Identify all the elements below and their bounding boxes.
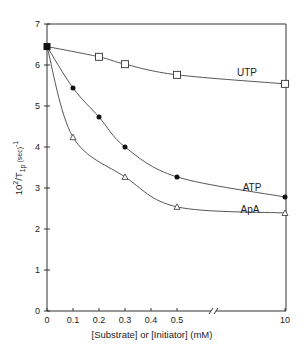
triangle-marker xyxy=(122,174,128,180)
y-tick-label: 4 xyxy=(35,142,40,152)
dot-marker xyxy=(283,195,288,200)
y-tick-label: 0 xyxy=(35,306,40,316)
series-labels: UTPATPApA xyxy=(237,67,262,215)
y-axis-title: 102/T1p (sec)-1 xyxy=(12,141,27,196)
x-tick-label: 0 xyxy=(44,315,49,325)
x-tick-label: 0.2 xyxy=(93,315,106,325)
dot-marker xyxy=(97,115,102,120)
series-label-utp: UTP xyxy=(237,67,257,78)
dot-marker xyxy=(123,145,128,150)
x-tick-label: 0.5 xyxy=(171,315,184,325)
y-tick-label: 5 xyxy=(35,101,40,111)
square-marker xyxy=(282,80,289,87)
dot-marker xyxy=(71,85,76,90)
x-tick-label: 0.1 xyxy=(67,315,80,325)
chart: 01234567 00.10.20.30.40.510 UTPATPApA [S… xyxy=(0,0,307,349)
y-axis-ticks: 01234567 xyxy=(35,19,50,316)
series-label-atp: ATP xyxy=(243,182,262,193)
x-tick-label: 0.3 xyxy=(119,315,132,325)
x-tick-label: 0.4 xyxy=(145,315,158,325)
series-label-apa: ApA xyxy=(241,204,260,215)
y-tick-label: 1 xyxy=(35,265,40,275)
dot-marker xyxy=(175,174,180,179)
square-marker xyxy=(174,71,181,78)
x-axis-title: [Substrate] or [Initiator] (mM) xyxy=(92,329,213,340)
triangle-marker xyxy=(70,134,76,140)
square-marker xyxy=(96,53,103,60)
y-tick-label: 7 xyxy=(35,19,40,29)
curve-utp xyxy=(47,47,285,84)
y-tick-label: 2 xyxy=(35,224,40,234)
y-tick-label: 6 xyxy=(35,60,40,70)
y-tick-label: 3 xyxy=(35,183,40,193)
square-marker xyxy=(122,61,129,68)
origin-marker xyxy=(44,43,51,50)
x-tick-label: 10 xyxy=(280,315,290,325)
